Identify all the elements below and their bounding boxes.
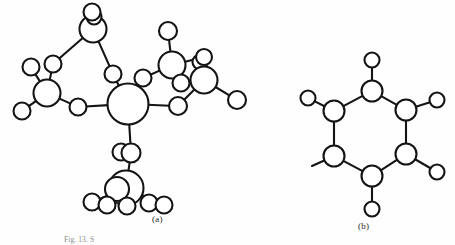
atom-circle [45, 56, 62, 73]
bond-line [215, 86, 230, 95]
panel-b-label: (b) [358, 221, 369, 231]
atom-circle [159, 22, 177, 40]
scan-speckle [410, 40, 411, 41]
scan-speckle [300, 22, 301, 23]
panel-a-atoms [14, 4, 247, 215]
atom-circle [135, 70, 152, 87]
bond-line [380, 159, 398, 171]
atom-circle [396, 144, 417, 165]
atom-circle [34, 80, 61, 107]
bond-line [414, 159, 431, 169]
bond-line [147, 105, 170, 106]
bond-line [380, 96, 397, 106]
scan-speckle [350, 225, 351, 226]
bond-stub [312, 160, 325, 166]
atom-circle [228, 91, 246, 109]
scan-speckle [318, 9, 319, 10]
atom-circle [14, 103, 31, 120]
bond-line [342, 160, 363, 171]
figure-container: (a) (b) Fig. 13. S [0, 0, 455, 245]
atom-circle [365, 202, 380, 217]
bond-line [98, 40, 110, 67]
atom-circle [119, 198, 136, 215]
panel-a-label: (a) [152, 214, 163, 224]
atom-circle [301, 91, 316, 106]
scan-speckle [95, 228, 96, 229]
atom-circle [84, 4, 101, 21]
scan-speckle [250, 200, 251, 201]
atom-circle [105, 66, 122, 83]
atom-circle [396, 100, 417, 121]
atom-circle [430, 165, 445, 180]
figure-caption: Fig. 13. S [64, 235, 94, 245]
bond-line [85, 105, 108, 106]
atom-circle [169, 97, 187, 115]
bond-line [342, 95, 363, 106]
atom-circle [196, 49, 212, 65]
atom-circle [324, 146, 345, 167]
panel-a-diagram [14, 4, 247, 215]
molecular-structure-svg [0, 0, 455, 245]
atom-circle [108, 84, 149, 125]
atom-circle [23, 59, 40, 76]
atom-circle [122, 144, 141, 163]
atom-circle [362, 81, 383, 102]
atom-circle [365, 53, 380, 68]
panel-b-diagram [301, 53, 445, 217]
scan-speckle [263, 38, 264, 39]
bond-line [58, 98, 71, 104]
atom-circle [99, 197, 116, 214]
atom-circle [324, 101, 345, 122]
bond-line [59, 37, 84, 59]
atom-circle [191, 67, 218, 94]
bond-line [169, 39, 171, 53]
atom-circle [362, 166, 383, 187]
atom-circle [430, 93, 445, 108]
scan-speckle [205, 231, 206, 232]
scan-speckle [44, 20, 45, 21]
atom-circle [156, 197, 173, 214]
scan-speckle [259, 16, 260, 17]
bond-line [415, 102, 431, 107]
atom-circle [70, 99, 87, 116]
bond-line [129, 123, 130, 144]
atom-circle [173, 75, 190, 92]
